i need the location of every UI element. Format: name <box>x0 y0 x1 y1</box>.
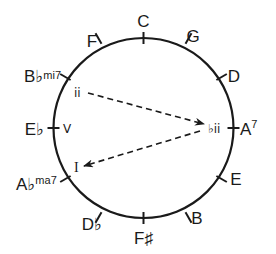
roman-numeral-labels: ii V ♭ii I <box>63 86 220 175</box>
note-labels: C G D A7 E B F♯ D♭ A♭ma7 E♭ B♭mi7 F <box>16 12 257 248</box>
note-label-g: G <box>186 27 199 46</box>
arrow-bii-to-i <box>84 131 200 166</box>
circle-ring <box>54 38 234 218</box>
note-label-f: F <box>87 32 97 51</box>
note-label-c: C <box>137 12 149 31</box>
roman-label-v: V <box>63 122 72 136</box>
note-label-db: D♭ <box>82 215 102 234</box>
note-label-fs: F♯ <box>134 229 153 248</box>
progression-arrows <box>84 93 204 166</box>
note-label-ab: A♭ma7 <box>16 174 57 194</box>
roman-label-ii: ii <box>74 86 81 100</box>
roman-label-i: I <box>74 160 79 175</box>
circle-of-fifths-diagram: C G D A7 E B F♯ D♭ A♭ma7 E♭ B♭mi7 F ii V… <box>0 0 276 254</box>
note-label-b: B <box>191 209 202 228</box>
note-label-bb: B♭mi7 <box>24 67 61 86</box>
note-label-d: D <box>228 67 240 86</box>
note-label-e: E <box>230 170 241 189</box>
note-label-eb: E♭ <box>25 120 44 139</box>
roman-label-bii: ♭ii <box>208 122 220 136</box>
note-label-a: A7 <box>240 118 257 139</box>
arrow-ii-to-bii <box>88 93 204 124</box>
